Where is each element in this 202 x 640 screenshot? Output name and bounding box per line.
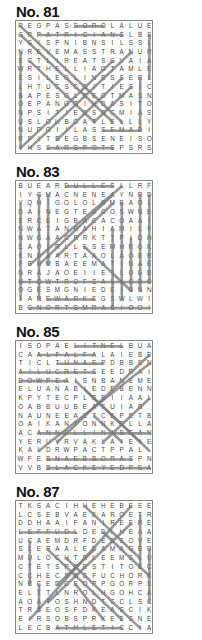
grid-letter: A	[117, 455, 126, 464]
grid-letter: O	[80, 420, 89, 429]
grid-letter: I	[16, 191, 25, 200]
grid-letter: T	[90, 342, 99, 351]
grid-letter: E	[53, 208, 62, 217]
grid-letter: T	[99, 83, 108, 92]
grid-row: TKSACIHHEHEBEEE	[16, 502, 152, 511]
grid-letter: B	[145, 412, 154, 421]
grid-letter: N	[34, 295, 43, 304]
grid-letter: B	[62, 615, 71, 624]
grid-letter: B	[117, 502, 126, 511]
grid-letter: W	[53, 295, 62, 304]
grid-letter: O	[99, 92, 108, 101]
grid-letter: S	[34, 511, 43, 520]
grid-letter: E	[126, 385, 135, 394]
grid-letter: A	[135, 109, 144, 118]
grid-letter: S	[80, 48, 89, 57]
grid-letter: C	[53, 572, 62, 581]
grid-letter: E	[108, 554, 117, 563]
grid-letter: O	[126, 537, 135, 546]
grid-letter: B	[126, 359, 135, 368]
grid-letter: E	[71, 260, 80, 269]
grid-letter: R	[135, 519, 144, 528]
grid-letter: A	[44, 519, 53, 528]
grid-letter: A	[126, 446, 135, 455]
grid-letter: M	[117, 225, 126, 234]
grid-letter: T	[135, 412, 144, 421]
grid-letter: T	[34, 57, 43, 66]
grid-letter: R	[53, 304, 62, 313]
grid-letter: L	[126, 295, 135, 304]
grid-letter: N	[90, 39, 99, 48]
grid-letter: N	[90, 377, 99, 386]
grid-row: SLERAALEDAMAGER	[16, 545, 152, 554]
grid-letter: A	[53, 342, 62, 351]
grid-letter: B	[117, 359, 126, 368]
grid-letter: V	[62, 511, 71, 520]
grid-letter: B	[62, 118, 71, 127]
grid-letter: R	[62, 57, 71, 66]
grid-letter: O	[108, 208, 117, 217]
grid-letter: I	[90, 83, 99, 92]
grid-letter: E	[108, 118, 117, 127]
grid-letter: A	[145, 420, 154, 429]
grid-letter: C	[34, 217, 43, 226]
grid-letter: E	[16, 74, 25, 83]
grid-letter: S	[108, 182, 117, 191]
grid-letter: E	[117, 615, 126, 624]
grid-letter: O	[25, 377, 34, 386]
grid-letter: B	[117, 199, 126, 208]
grid-letter: S	[117, 74, 126, 83]
grid-letter: O	[16, 286, 25, 295]
grid-letter: E	[135, 252, 144, 261]
grid-letter: A	[99, 278, 108, 287]
grid-letter: P	[25, 109, 34, 118]
grid-letter: I	[80, 100, 89, 109]
grid-letter: E	[90, 286, 99, 295]
grid-letter: E	[145, 615, 154, 624]
grid-letter: C	[62, 191, 71, 200]
grid-letter: I	[34, 135, 43, 144]
grid-letter: N	[16, 225, 25, 234]
grid-letter: A	[44, 234, 53, 243]
grid-letter: O	[145, 100, 154, 109]
grid-letter: K	[80, 464, 89, 473]
grid-letter: W	[62, 446, 71, 455]
grid-letter: I	[34, 74, 43, 83]
grid-letter: I	[117, 403, 126, 412]
puzzle-87: No. 87 TKSACIHHEHEBEEELCSEBVAEEAROETRDDH…	[15, 484, 155, 634]
grid-row: OAIKANTONNKELLA	[16, 420, 152, 429]
grid-letter: A	[117, 65, 126, 74]
grid-letter: S	[126, 455, 135, 464]
grid-letter: S	[99, 57, 108, 66]
grid-letter: E	[71, 269, 80, 278]
grid-letter: L	[16, 624, 25, 633]
grid-letter: C	[117, 598, 126, 607]
grid-letter: O	[62, 92, 71, 101]
grid-letter: M	[117, 554, 126, 563]
grid-letter: R	[53, 446, 62, 455]
grid-letter: E	[90, 511, 99, 520]
grid-letter: I	[80, 65, 89, 74]
grid-letter: R	[25, 48, 34, 57]
grid-letter: C	[145, 563, 154, 572]
grid-letter: N	[44, 208, 53, 217]
grid-letter: U	[135, 48, 144, 57]
grid-letter: N	[135, 385, 144, 394]
grid-letter: E	[25, 438, 34, 447]
grid-letter: D	[62, 528, 71, 537]
grid-letter: S	[44, 39, 53, 48]
grid-letter: C	[99, 412, 108, 421]
grid-letter: S	[34, 606, 43, 615]
grid-letter	[145, 403, 154, 412]
grid-letter: T	[44, 225, 53, 234]
grid-letter: N	[135, 615, 144, 624]
grid-letter: U	[34, 385, 43, 394]
grid-letter: B	[44, 403, 53, 412]
grid-letter: L	[126, 31, 135, 40]
grid-letter: A	[145, 342, 154, 351]
grid-letter: Y	[25, 191, 34, 200]
grid-letter: P	[34, 100, 43, 109]
grid-letter: N	[16, 126, 25, 135]
grid-letter: S	[90, 126, 99, 135]
grid-letter: C	[25, 429, 34, 438]
